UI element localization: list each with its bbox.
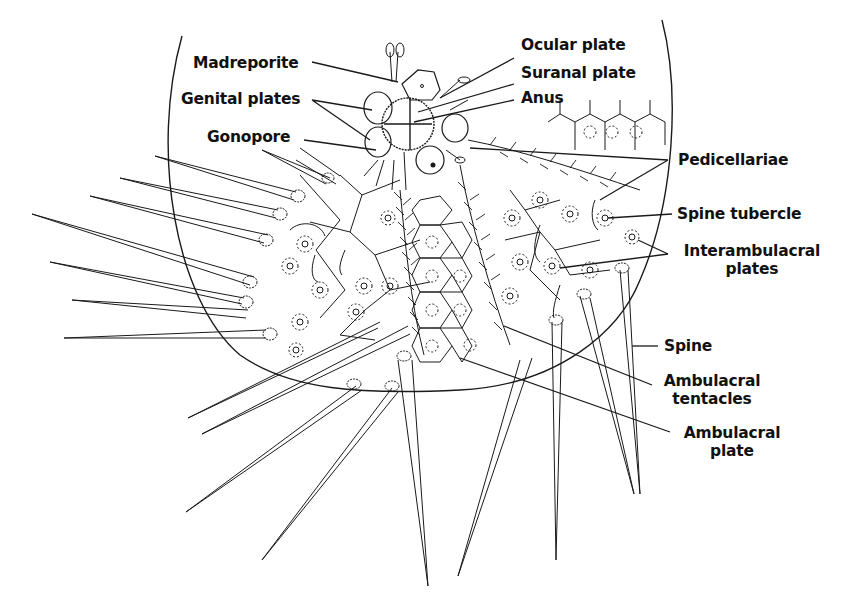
label-ambulacral-tentacles-line2: tentacles [652,390,772,408]
label-ambulacral-plate-line2: plate [672,442,792,460]
spines [32,148,640,586]
label-gonopore: Gonopore [207,128,290,146]
label-suranal-plate: Suranal plate [521,64,636,82]
label-madreporite: Madreporite [193,54,299,72]
ambulacral-tentacles [394,137,640,355]
ambulacral-plates-center [412,196,476,362]
upper-ambulacral-hexes [548,100,665,150]
urchin-illustration [0,0,844,608]
interambulacral-plates-right [502,190,639,318]
sea-urchin-diagram: Madreporite Genital plates Gonopore Ocul… [0,0,844,608]
leader-genital-plates [312,100,372,140]
leader-ocular-plate [440,58,514,98]
label-ambulacral-tentacles: Ambulacral tentacles [652,372,772,408]
label-spine-tubercle: Spine tubercle [677,205,801,223]
label-ambulacral-plate-line1: Ambulacral [672,424,792,442]
label-interambulacral-plates: Interambulacral plates [672,242,832,278]
apical-disc [364,43,470,190]
leader-spine-tubercle [608,214,672,218]
label-anus: Anus [521,89,564,107]
leader-ambulacral-plate [460,358,670,432]
label-ambulacral-tentacles-line1: Ambulacral [652,372,772,390]
leader-madreporite [312,62,398,82]
label-ocular-plate: Ocular plate [521,36,626,54]
label-interambulacral-line1: Interambulacral [672,242,832,260]
leader-suranal-plate [418,84,514,112]
label-spine: Spine [664,337,712,355]
label-genital-plates: Genital plates [181,90,300,108]
leader-lines [304,58,672,432]
label-ambulacral-plate: Ambulacral plate [672,424,792,460]
leader-pedicellariae [470,148,668,200]
label-pedicellariae: Pedicellariae [678,151,788,169]
leader-interambulacral-plates [560,240,668,268]
label-interambulacral-line2: plates [672,260,832,278]
